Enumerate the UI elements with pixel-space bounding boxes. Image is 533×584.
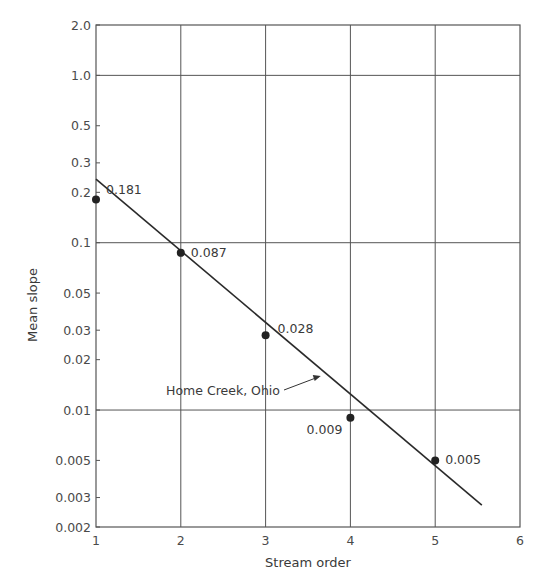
data-point (262, 331, 270, 339)
y-tick-label: 0.003 (55, 490, 91, 505)
data-point-label: 0.005 (445, 452, 481, 467)
regression-line (96, 179, 482, 505)
y-tick-label: 1.0 (71, 68, 91, 83)
data-point (346, 414, 354, 422)
data-point (177, 249, 185, 257)
x-tick-label: 6 (516, 533, 524, 548)
x-tick-label: 3 (262, 533, 270, 548)
data-point-label: 0.087 (191, 245, 227, 260)
arrow-head-icon (313, 375, 321, 381)
x-tick-label: 1 (92, 533, 100, 548)
x-tick-label: 4 (346, 533, 354, 548)
y-tick-label: 0.02 (63, 352, 91, 367)
data-point-label: 0.028 (278, 321, 314, 336)
x-tick-label: 2 (177, 533, 185, 548)
x-tick-label: 5 (431, 533, 439, 548)
data-point-label: 0.009 (307, 422, 343, 437)
annotation-label: Home Creek, Ohio (166, 383, 280, 398)
data-point-label: 0.181 (106, 182, 142, 197)
y-tick-label: 0.002 (55, 520, 91, 535)
annotation: Home Creek, Ohio (166, 375, 321, 398)
y-tick-label: 0.5 (71, 118, 91, 133)
y-tick-label: 0.1 (71, 235, 91, 250)
data-point (92, 196, 100, 204)
data-point (431, 456, 439, 464)
y-tick-label: 0.3 (71, 155, 91, 170)
y-tick-label: 0.03 (63, 323, 91, 338)
chart: 2.01.00.50.30.20.10.050.030.020.010.0050… (0, 0, 533, 584)
x-axis-title: Stream order (265, 555, 351, 570)
y-axis: 2.01.00.50.30.20.10.050.030.020.010.0050… (55, 18, 100, 535)
y-tick-label: 2.0 (71, 18, 91, 33)
x-axis: 123456 (92, 533, 524, 548)
annotation-arrow (284, 377, 319, 390)
y-tick-label: 0.05 (63, 286, 91, 301)
y-tick-label: 0.005 (55, 453, 91, 468)
y-tick-label: 0.01 (63, 403, 91, 418)
y-tick-label: 0.2 (71, 185, 91, 200)
y-axis-title: Mean slope (25, 268, 40, 342)
fit-line (96, 179, 482, 505)
